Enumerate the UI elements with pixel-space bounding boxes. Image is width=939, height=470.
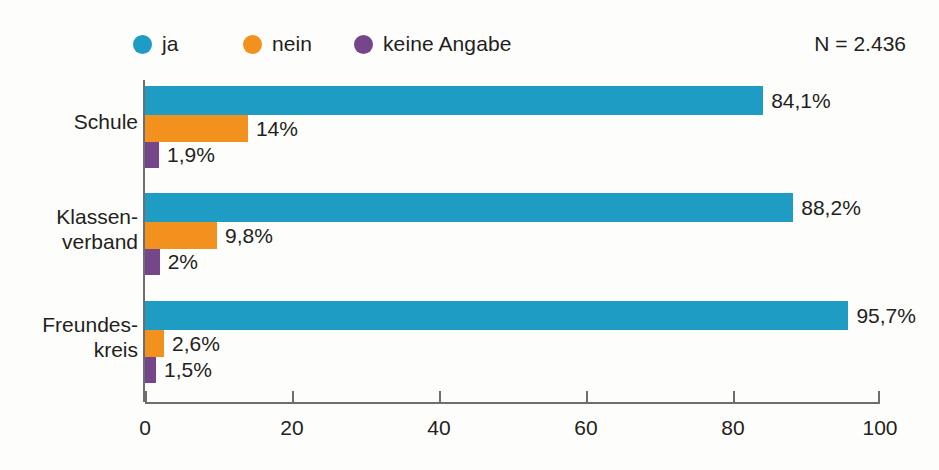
bar-value-label: 14% xyxy=(248,117,298,141)
x-axis-tick-label: 0 xyxy=(139,416,151,440)
category-label-freundeskreis: Freundes- kreis xyxy=(3,312,138,362)
bar-row: 1,9% xyxy=(145,142,880,168)
x-axis-tick-label: 60 xyxy=(574,416,597,440)
bar-chart: ja nein keine Angabe N = 2.436 Schule Kl… xyxy=(0,0,939,470)
legend-item-nein[interactable]: nein xyxy=(243,28,312,60)
bar-value-label: 9,8% xyxy=(217,224,273,248)
bar-klassenverband-ja[interactable] xyxy=(145,193,793,222)
bar-group-schule: 84,1% 14% 1,9% xyxy=(145,86,880,168)
bar-value-label: 88,2% xyxy=(793,196,861,220)
x-axis-tick-label: 40 xyxy=(427,416,450,440)
legend-item-label: nein xyxy=(272,32,312,56)
x-axis-tick xyxy=(586,391,588,402)
circle-icon xyxy=(243,35,262,54)
bar-value-label: 1,9% xyxy=(159,143,215,167)
x-axis-tick xyxy=(878,391,880,402)
legend-item-keine-angabe[interactable]: keine Angabe xyxy=(354,28,511,60)
bar-row: 84,1% xyxy=(145,86,880,115)
circle-icon xyxy=(133,35,152,54)
legend-item-label: ja xyxy=(162,32,179,56)
bar-value-label: 2% xyxy=(160,250,198,274)
bar-schule-keine-angabe[interactable] xyxy=(145,142,159,168)
category-label-klassenverband: Klassen- verband xyxy=(3,204,138,254)
category-label-line: Klassen- xyxy=(3,204,138,229)
bar-row: 95,7% xyxy=(145,301,880,330)
bar-klassenverband-keine-angabe[interactable] xyxy=(145,249,160,275)
x-axis-tick xyxy=(145,391,147,402)
bar-value-label: 84,1% xyxy=(763,89,831,113)
legend-item-label: keine Angabe xyxy=(383,32,511,56)
y-axis-labels: Schule Klassen- verband Freundes- kreis xyxy=(0,80,138,402)
x-axis-tick xyxy=(439,391,441,402)
x-axis-tick xyxy=(733,391,735,402)
bar-value-label: 2,6% xyxy=(164,332,220,356)
x-axis-tick-label: 80 xyxy=(721,416,744,440)
bar-klassenverband-nein[interactable] xyxy=(145,222,217,249)
bar-row: 1,5% xyxy=(145,357,880,383)
bar-freundeskreis-nein[interactable] xyxy=(145,330,164,357)
x-axis-tick xyxy=(292,391,294,402)
x-axis-tick-label: 20 xyxy=(280,416,303,440)
bar-schule-nein[interactable] xyxy=(145,115,248,142)
legend-item-ja[interactable]: ja xyxy=(133,28,179,60)
category-label-line: verband xyxy=(3,229,138,254)
bar-value-label: 1,5% xyxy=(156,358,212,382)
sample-size-annotation: N = 2.436 xyxy=(814,28,906,60)
category-label-schule: Schule xyxy=(3,109,138,134)
bar-schule-ja[interactable] xyxy=(145,86,763,115)
bar-row: 9,8% xyxy=(145,222,880,249)
bar-freundeskreis-keine-angabe[interactable] xyxy=(145,357,156,383)
bar-row: 14% xyxy=(145,115,880,142)
category-label-line: Freundes- xyxy=(3,312,138,337)
circle-icon xyxy=(354,35,373,54)
bar-group-freundeskreis: 95,7% 2,6% 1,5% xyxy=(145,301,880,383)
bar-value-label: 95,7% xyxy=(848,304,916,328)
category-label-line: kreis xyxy=(3,337,138,362)
category-label-line: Schule xyxy=(3,109,138,134)
plot-area: 84,1% 14% 1,9% 88,2% 9,8% 2% xyxy=(145,80,880,402)
bar-row: 2,6% xyxy=(145,330,880,357)
x-axis-tick-label: 100 xyxy=(862,416,897,440)
bar-row: 88,2% xyxy=(145,193,880,222)
bar-row: 2% xyxy=(145,249,880,275)
bar-group-klassenverband: 88,2% 9,8% 2% xyxy=(145,193,880,275)
chart-legend: ja nein keine Angabe xyxy=(0,28,939,60)
x-axis: 020406080100 xyxy=(145,402,880,404)
bar-freundeskreis-ja[interactable] xyxy=(145,301,848,330)
